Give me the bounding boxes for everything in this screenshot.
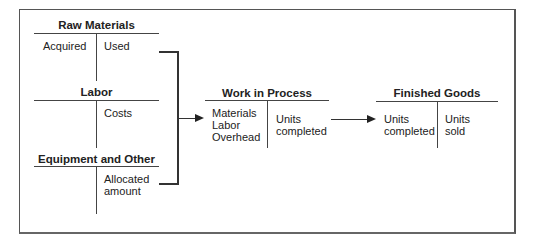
raw-materials-title: Raw Materials	[34, 19, 159, 31]
equipment-title: Equipment and Other	[34, 153, 159, 165]
wip-title: Work in Process	[205, 87, 329, 99]
bracket-bottom-arm	[159, 183, 178, 185]
raw-materials-debit: Acquired	[43, 40, 86, 53]
arrow-to-wip-shaft	[178, 118, 196, 119]
wip-credit-line2: completed	[276, 125, 327, 138]
equipment-divider	[96, 166, 97, 214]
labor-title: Labor	[34, 86, 159, 98]
raw-materials-credit: Used	[104, 40, 130, 53]
finished-goods-divider	[437, 101, 438, 148]
labor-credit: Costs	[104, 107, 132, 120]
arrow-right-icon	[195, 114, 204, 122]
equipment-credit-line2: amount	[104, 185, 141, 198]
wip-debit-line3: Overhead	[212, 131, 260, 144]
wip-divider	[267, 100, 268, 148]
arrow-fg-shaft	[331, 119, 368, 120]
bracket-top-arm	[159, 51, 178, 53]
labor-divider	[96, 100, 97, 148]
finished-goods-title: Finished Goods	[376, 87, 498, 99]
arrow-right-icon	[367, 115, 376, 123]
fg-credit-line2: sold	[445, 125, 465, 138]
raw-materials-divider	[96, 33, 97, 81]
fg-debit-line2: completed	[384, 125, 435, 138]
